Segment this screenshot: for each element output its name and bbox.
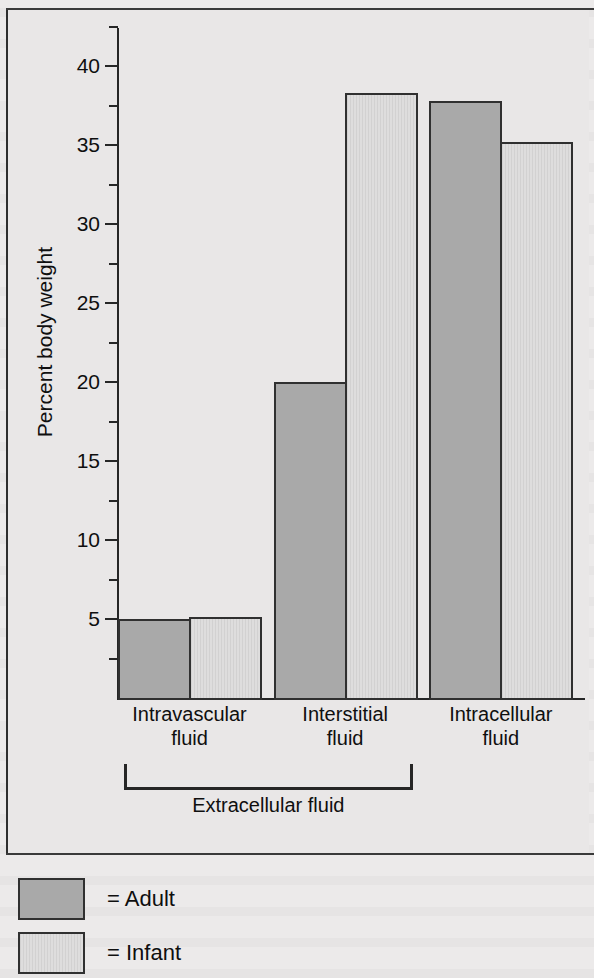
legend-swatch-infant xyxy=(18,932,85,974)
legend-item-infant: = Infant xyxy=(18,930,181,976)
category-label-line: Intravascular xyxy=(104,703,275,727)
bar-adult-1 xyxy=(274,382,347,700)
bar-adult-2 xyxy=(429,101,502,700)
y-axis-line xyxy=(117,28,119,700)
y-axis-major-tick xyxy=(105,618,118,620)
category-label-line: fluid xyxy=(260,727,431,751)
category-label-line: fluid xyxy=(104,727,275,751)
y-axis-tick-label: 10 xyxy=(40,529,100,550)
y-axis-major-tick xyxy=(105,223,118,225)
bar-adult-0 xyxy=(118,619,191,700)
y-axis-minor-tick xyxy=(109,579,118,581)
x-axis-category-label-0: Intravascularfluid xyxy=(104,703,275,750)
y-axis-major-tick xyxy=(105,381,118,383)
y-axis-tick-label: 40 xyxy=(40,55,100,76)
y-axis-major-tick xyxy=(105,460,118,462)
bar-infant-1 xyxy=(345,93,418,700)
y-axis-minor-tick xyxy=(109,658,118,660)
y-axis-major-tick xyxy=(105,144,118,146)
category-label-line: Interstitial xyxy=(260,703,431,727)
legend-series-name-infant: Infant xyxy=(126,940,181,965)
y-axis-title: Percent body weight xyxy=(33,212,57,472)
extracellular-fluid-bracket xyxy=(124,764,413,790)
y-axis-major-tick xyxy=(105,65,118,67)
extracellular-fluid-bracket-label: Extracellular fluid xyxy=(124,794,413,817)
legend-equals-sign-infant: = xyxy=(107,940,120,965)
y-axis-minor-tick xyxy=(109,342,118,344)
y-axis-minor-tick xyxy=(109,26,118,28)
y-axis-major-tick xyxy=(105,539,118,541)
legend-swatch-adult xyxy=(18,878,85,920)
legend-item-adult: = Adult xyxy=(18,876,181,922)
legend-series-name-adult: Adult xyxy=(125,886,175,911)
y-axis-minor-tick xyxy=(109,500,118,502)
bar-infant-2 xyxy=(500,142,573,700)
y-axis-tick-label: 5 xyxy=(40,608,100,629)
legend-label-adult: = Adult xyxy=(107,886,175,912)
y-axis-minor-tick xyxy=(109,421,118,423)
y-axis-minor-tick xyxy=(109,263,118,265)
bar-chart-plot-area: 510152025303540 Percent body weight Intr… xyxy=(0,0,594,978)
y-axis-major-tick xyxy=(105,302,118,304)
bar-infant-0 xyxy=(189,617,262,700)
legend-label-infant: = Infant xyxy=(107,940,181,966)
legend-equals-sign-adult: = xyxy=(107,886,120,911)
x-axis-category-label-1: Interstitialfluid xyxy=(260,703,431,750)
y-axis-minor-tick xyxy=(109,184,118,186)
y-axis-minor-tick xyxy=(109,105,118,107)
y-axis-tick-label: 35 xyxy=(40,134,100,155)
chart-legend: = Adult = Infant xyxy=(18,876,181,978)
category-label-line: fluid xyxy=(415,727,586,751)
category-label-line: Intracellular xyxy=(415,703,586,727)
x-axis-category-label-2: Intracellularfluid xyxy=(415,703,586,750)
